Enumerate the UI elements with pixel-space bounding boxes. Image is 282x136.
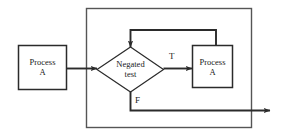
flowchart-canvas — [0, 0, 282, 136]
loop-back-edge-line — [131, 30, 217, 47]
negated-test-diamond — [97, 47, 164, 92]
process-a-left-box — [19, 46, 67, 90]
process-a-right-box — [193, 46, 233, 88]
false-edge-line — [131, 92, 271, 111]
flowchart-diagram: Process A Negated test Process A T F — [0, 0, 282, 136]
